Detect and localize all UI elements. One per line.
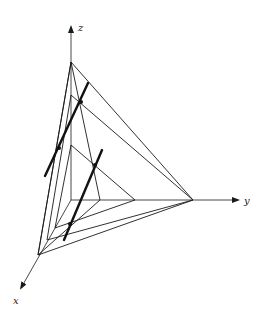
y-axis-label: y bbox=[243, 195, 250, 206]
intersection-point bbox=[57, 146, 61, 150]
line-1 bbox=[45, 83, 88, 176]
x-axis bbox=[21, 200, 71, 288]
coordinate-diagram: z y x bbox=[0, 0, 256, 318]
inner-plane bbox=[55, 145, 135, 228]
intersection-point bbox=[93, 163, 97, 167]
intersection-point bbox=[68, 222, 72, 226]
plane-traces bbox=[38, 62, 193, 255]
z-axis-label: z bbox=[77, 22, 84, 33]
x-axis-label: x bbox=[13, 295, 19, 306]
intersection-point bbox=[79, 100, 83, 104]
